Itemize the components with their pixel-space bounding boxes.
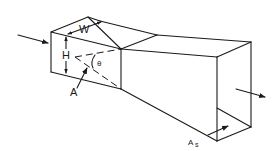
- outlet-area-subscript: s: [195, 141, 199, 148]
- outlet-area-label: A: [188, 138, 194, 147]
- width-label: W: [79, 23, 90, 35]
- diffuser-body: [100, 21, 251, 141]
- height-label: H: [62, 49, 70, 61]
- flow-in-arrow-icon: [18, 35, 48, 43]
- inlet-area-label: A: [70, 86, 78, 98]
- angle-arc: [92, 55, 95, 68]
- width-dimension: W: [68, 22, 101, 35]
- outlet-area-pointer: A s: [188, 126, 228, 148]
- angle-label: θ: [97, 59, 102, 68]
- diffuser-diagram: W H θ A A s: [0, 0, 280, 151]
- inlet-area-pointer: A: [70, 68, 87, 98]
- height-dimension: H: [61, 37, 71, 73]
